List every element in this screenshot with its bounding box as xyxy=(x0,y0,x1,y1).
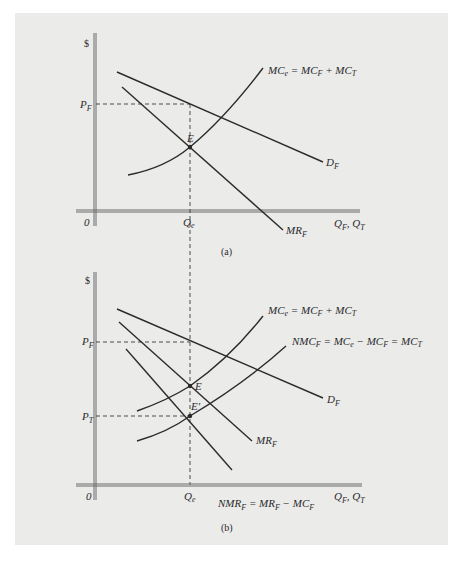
mr-curve-b xyxy=(119,322,252,441)
mce-label-b: MCe = MCF + MCT xyxy=(267,304,357,318)
origin-label-b: 0 xyxy=(86,490,92,502)
equilibrium-point-e-a xyxy=(188,145,192,149)
mc-label-a: MCe = MCF + MCT xyxy=(267,64,357,78)
df-label-a: DF xyxy=(325,156,339,171)
eprime-label-b: E′ xyxy=(190,400,201,412)
e-label-b: E xyxy=(194,380,202,392)
qe-label-a: Qe xyxy=(183,216,195,230)
mc-curve-a xyxy=(128,68,263,175)
x-axis-label-a: QF, QT xyxy=(334,217,365,232)
mr-curve-a xyxy=(122,87,283,230)
economics-diagram: $ 0 PF Qe DF MRF MCe = MCF + MCT E (a) Q… xyxy=(0,0,463,564)
demand-curve-a xyxy=(117,72,323,162)
origin-label-a: 0 xyxy=(84,216,90,228)
nmc-label-b: NMCF = MCe − MCF = MCT xyxy=(291,335,423,349)
caption-b: (b) xyxy=(221,522,233,534)
y-axis-label-a: $ xyxy=(84,38,89,49)
y-axis-label-b: $ xyxy=(85,275,90,286)
panel-b: $ 0 PF PT Qe DF MRF NMRF = MRF − MCF MCe… xyxy=(76,272,423,534)
equilibrium-point-eprime-b xyxy=(188,414,192,418)
nmc-curve-b xyxy=(137,346,286,441)
e-label-a: E xyxy=(186,132,194,144)
qe-label-b: Qe xyxy=(184,490,196,504)
x-axis-label-b: QF, QT xyxy=(334,490,365,505)
pf-label-b: PF xyxy=(81,335,94,350)
equilibrium-point-e-b xyxy=(188,384,192,388)
nmr-label-b: NMRF = MRF − MCF xyxy=(217,497,314,512)
mr-label-b: MRF xyxy=(255,434,277,449)
panel-a: $ 0 PF Qe DF MRF MCe = MCF + MCT E (a) Q… xyxy=(76,33,365,485)
demand-curve-b xyxy=(117,309,323,398)
df-label-b: DF xyxy=(326,393,340,408)
caption-a: (a) xyxy=(221,246,232,258)
pt-label-b: PT xyxy=(81,410,94,425)
mr-label-a: MRF xyxy=(285,224,307,239)
pf-label-a: PF xyxy=(79,98,92,113)
